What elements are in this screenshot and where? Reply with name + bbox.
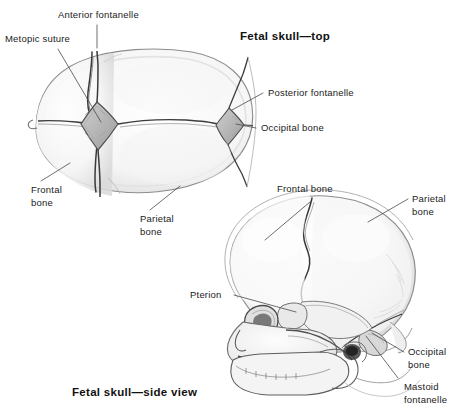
label-occipital-bone-top: Occipital bone: [261, 122, 324, 135]
leader-occipital-bone-side: [372, 333, 404, 352]
label-occipital-bone-side: Occipital bone: [408, 346, 446, 371]
side-view-skull: [225, 190, 420, 397]
leader-frontal-bone-side: [265, 202, 310, 240]
label-posterior-fontanelle: Posterior fontanelle: [268, 87, 354, 100]
metopic-suture-line: [88, 52, 97, 192]
skull-illustration: [0, 0, 469, 419]
label-metopic-suture: Metopic suture: [5, 33, 70, 46]
leader-mastoid-fontanelle: [366, 336, 398, 378]
top-view-skull: [28, 49, 256, 197]
label-parietal-bone-side: Parietal bone: [412, 193, 446, 218]
label-mastoid-fontanelle: Mastoid fontanelle: [404, 381, 447, 406]
posterior-fontanelle-shape: [216, 108, 244, 145]
mastoid-fontanelle-shape: [359, 330, 387, 356]
label-pterion: Pterion: [190, 289, 222, 302]
label-frontal-bone-side: Frontal bone: [277, 183, 333, 196]
leader-posterior-fontanelle: [232, 93, 263, 110]
anterior-fontanelle-shape: [81, 102, 118, 150]
leader-parietal-bone-side: [368, 199, 408, 222]
leader-lines: [0, 0, 469, 419]
pterion-shape: [278, 303, 308, 329]
label-frontal-bone-top: Frontal bone: [31, 184, 62, 209]
leader-metopic-suture: [58, 49, 101, 122]
leader-frontal-bone-top: [41, 163, 70, 181]
leader-pterion: [234, 295, 296, 312]
figure-canvas: Fetal skull—top Fetal skull—side view An…: [0, 0, 469, 419]
leader-occipital-bone-top: [236, 124, 256, 128]
label-parietal-bone-top: Parietal bone: [140, 213, 174, 238]
title-top-view: Fetal skull—top: [240, 30, 330, 42]
label-anterior-fontanelle: Anterior fontanelle: [58, 9, 139, 22]
coronal-suture-side: [301, 198, 312, 320]
title-side-view: Fetal skull—side view: [72, 386, 197, 398]
leader-parietal-bone-top: [150, 186, 180, 210]
